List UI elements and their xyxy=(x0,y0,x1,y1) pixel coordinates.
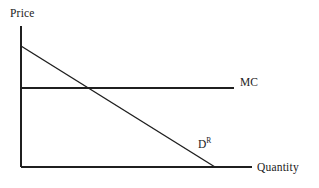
demand-curve-label: DR xyxy=(198,137,211,150)
mc-curve-label: MC xyxy=(240,76,258,88)
demand-curve-line xyxy=(21,46,215,167)
demand-curve-label-superscript: R xyxy=(206,136,211,145)
mc-curve-label-text: MC xyxy=(240,76,258,88)
quantity-axis-label: Quantity xyxy=(257,161,299,173)
price-axis-label: Price xyxy=(10,7,35,19)
price-quantity-diagram: Price Quantity MC DR xyxy=(0,0,319,188)
diagram-canvas xyxy=(0,0,319,188)
